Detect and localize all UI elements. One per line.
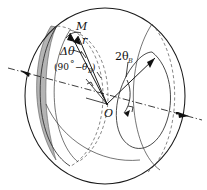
svg-text:B: B <box>127 57 133 65</box>
label-two-theta-b: 2θ B <box>115 50 133 65</box>
svg-text:2θ: 2θ <box>115 50 129 63</box>
figure-canvas: M r Δθ (90 ° − θ B ) 2θ B O <box>0 0 207 190</box>
arc-two-theta-arrowhead <box>124 110 130 117</box>
label-point-m: M <box>75 20 88 33</box>
right-cone-ellipse <box>116 52 170 148</box>
origin-point <box>106 103 108 105</box>
label-radius-r: r <box>82 34 88 47</box>
svg-text:): ) <box>92 62 96 72</box>
label-delta-theta: Δθ <box>59 45 75 58</box>
sphere-diagram-svg: M r Δθ (90 ° − θ B ) 2θ B O <box>0 0 207 190</box>
axis-surface-point <box>176 112 178 114</box>
ray-right-arrowhead <box>147 58 155 68</box>
label-origin-o: O <box>104 107 113 120</box>
svg-text:°: ° <box>70 59 75 69</box>
svg-text:(90: (90 <box>54 62 69 72</box>
